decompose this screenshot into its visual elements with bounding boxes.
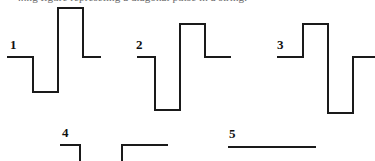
- waveform-4-path-b: [122, 145, 168, 161]
- waveform-label-5: 5: [229, 127, 236, 140]
- waveform-label-4: 4: [62, 126, 69, 139]
- waveform-label-1: 1: [10, 38, 17, 51]
- waveform-4-path-a: [60, 145, 80, 161]
- waveform-label-3: 3: [277, 38, 284, 51]
- waveform-canvas: [0, 0, 375, 161]
- waveform-1-path: [7, 8, 101, 92]
- waveform-3-path: [277, 24, 375, 113]
- waveform-2-path: [137, 24, 231, 110]
- waveform-label-2: 2: [136, 38, 143, 51]
- worksheet-page: ...ng figure represeting a diagonal puls…: [0, 0, 375, 161]
